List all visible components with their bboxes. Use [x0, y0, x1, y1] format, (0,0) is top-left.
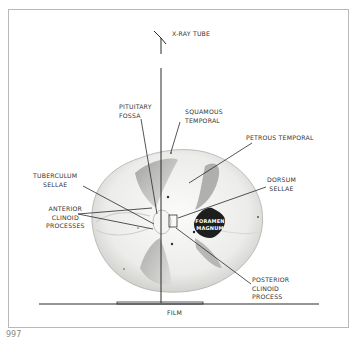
figure-number: 997: [6, 330, 21, 339]
film-cassette: [117, 302, 203, 304]
label-petrous-temporal: PETROUS TEMPORAL: [246, 134, 314, 143]
film-plate: [39, 302, 319, 304]
label-anterior-clinoid-processes: ANTERIOR CLINOID PROCESSES: [46, 205, 85, 231]
label-pituitary-fossa: PITUITARY FOSSA: [119, 103, 152, 120]
label-film: FILM: [167, 309, 182, 318]
label-tuberculum-sellae: TUBERCULUM SELLAE: [33, 172, 77, 189]
xray-tube-icon-b: [161, 38, 166, 44]
label-dorsum-sellae: DORSUM SELLAE: [267, 176, 296, 193]
leader-squamous-temporal: [171, 122, 180, 152]
sella-turcica: [153, 210, 171, 234]
label-squamous-temporal: SQUAMOUS TEMPORAL: [185, 108, 223, 125]
foramen-label-line1: FORAMEN: [195, 218, 224, 224]
label-xray-tube: X-RAY TUBE: [172, 30, 210, 39]
skull-xray-diagram: FORAMEN MAGNUM: [0, 0, 357, 341]
xray-tube-icon: [154, 31, 161, 38]
skull-base: FORAMEN MAGNUM: [92, 150, 263, 293]
label-posterior-clinoid-process: POSTERIOR CLINOID PROCESS: [252, 276, 289, 302]
foramen-label-line2: MAGNUM: [196, 225, 223, 231]
